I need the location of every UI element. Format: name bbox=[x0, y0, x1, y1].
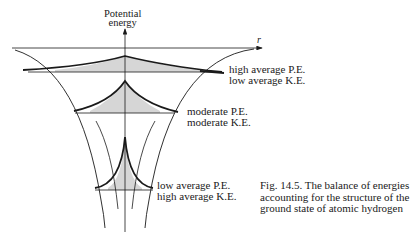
figure-caption: Fig. 14.5. The balance of energies accou… bbox=[260, 180, 420, 215]
level-1-label: high average P.E. low average K.E. bbox=[229, 64, 305, 86]
inner-curve-right bbox=[132, 121, 155, 209]
y-axis-label: Potential energy bbox=[104, 9, 141, 27]
potential-curve-left bbox=[15, 50, 105, 228]
level-3-ke: high average K.E. bbox=[157, 191, 236, 202]
level-2-ke: moderate K.E. bbox=[187, 117, 251, 128]
level-3-label: low average P.E. high average K.E. bbox=[157, 180, 236, 202]
level-2-label: moderate P.E. moderate K.E. bbox=[187, 106, 251, 128]
level-1-ke: low average K.E. bbox=[229, 75, 305, 86]
level-1-fill bbox=[55, 56, 205, 72]
y-axis-label-line2: energy bbox=[104, 18, 141, 27]
x-axis-label: r bbox=[257, 34, 261, 45]
inner-curve-left bbox=[96, 121, 118, 209]
